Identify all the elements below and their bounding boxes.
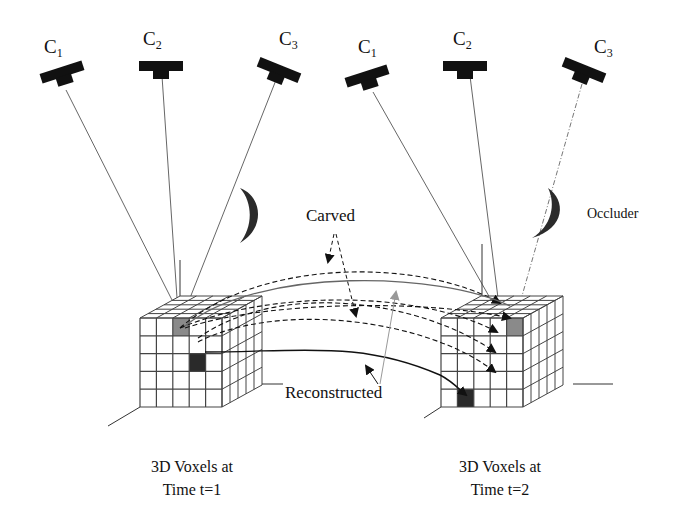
camera-c1-t2: [345, 64, 392, 95]
voxel-diagram: [0, 0, 684, 527]
camera-label-sub: 3: [607, 46, 613, 60]
camera-label-c2-t2: C2: [453, 28, 472, 53]
camera-label-base: C: [44, 36, 57, 57]
camera-rays-t2: [373, 76, 582, 298]
camera-label-base: C: [358, 36, 371, 57]
camera-label-sub: 2: [466, 38, 472, 52]
camera-label-sub: 3: [292, 38, 298, 52]
camera-rays-t1: [66, 76, 276, 300]
caption-t2: 3D Voxels at Time t=2: [420, 455, 580, 501]
camera-label-base: C: [594, 36, 607, 57]
caption-t1-line1: 3D Voxels at: [112, 455, 272, 478]
camera-c1-t1: [40, 60, 87, 91]
camera-label-c1-t2: C1: [358, 36, 377, 61]
camera-label-sub: 2: [156, 38, 162, 52]
camera-c2-t2: [443, 61, 487, 79]
caption-t2-line2: Time t=2: [420, 478, 580, 501]
camera-label-sub: 1: [57, 46, 63, 60]
camera-label-sub: 1: [371, 46, 377, 60]
camera-c2-t1: [139, 61, 183, 79]
voxel-grid-t2: [441, 296, 563, 407]
caption-t1-line2: Time t=1: [112, 478, 272, 501]
camera-c3-t2: [559, 57, 607, 90]
camera-label-c1-t1: C1: [44, 36, 63, 61]
occluder-t1-icon: [240, 188, 258, 243]
camera-label-c3-t2: C3: [594, 36, 613, 61]
camera-label-base: C: [279, 28, 292, 49]
camera-label-c3-t1: C3: [279, 28, 298, 53]
carved-label: Carved: [306, 206, 355, 226]
reconstructed-label: Reconstructed: [285, 383, 382, 403]
camera-label-base: C: [453, 28, 466, 49]
caption-t1: 3D Voxels at Time t=1: [112, 455, 272, 501]
camera-label-base: C: [143, 28, 156, 49]
camera-label-c2-t1: C2: [143, 28, 162, 53]
occluder-t2-icon: [532, 188, 560, 238]
occluder-label: Occluder: [587, 206, 638, 222]
caption-t2-line1: 3D Voxels at: [420, 455, 580, 478]
camera-c3-t1: [254, 57, 302, 90]
